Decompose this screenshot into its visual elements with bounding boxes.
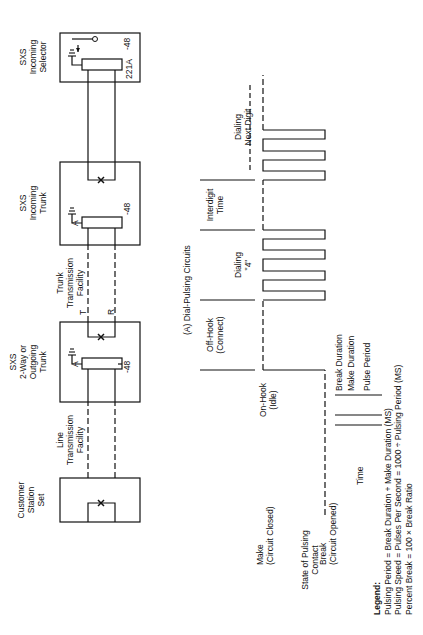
make-duration-label: Make Duration [346, 336, 356, 391]
tip-label: T [78, 310, 88, 315]
relay-a-two-way [82, 358, 122, 369]
pulse-period-label: Pulse Period [362, 343, 372, 391]
label-line: Trunk [38, 332, 48, 392]
pulse-train-next [263, 130, 325, 180]
label-line: Outgoing [28, 332, 38, 392]
label-line: Facility [75, 253, 85, 313]
label-line: Off-Hook [205, 307, 215, 363]
relay-a-incoming [82, 217, 122, 228]
relay-a-incoming-label: A [70, 220, 80, 226]
figure-caption: (A) Dial-Pulsing Circuits [182, 245, 192, 335]
two-way-trunk-label: SXS 2-Way or Outgoing Trunk [8, 332, 48, 392]
on-hook-label: On-Hook (Idle) [258, 375, 278, 425]
label-line: Dialing [233, 97, 243, 157]
state-axis-title: State of Pulsing Contact [300, 525, 320, 595]
label-line: Dialing [233, 240, 243, 290]
label-line: Incoming [28, 27, 38, 87]
label-line: Time [215, 180, 225, 230]
diagram-stage: Customer Station Set SXS 2-Way or Outgoi… [0, 0, 423, 635]
label-line: Line [55, 410, 65, 470]
customer-station-label: Customer Station Set [16, 470, 46, 530]
pulse-train-4 [263, 230, 325, 300]
label-line: Set [36, 470, 46, 530]
legend-line: Pulsing Speed = Pulses Per Second = 1000… [393, 365, 404, 615]
voltage-two-way: -48 [122, 361, 132, 373]
voltage-incoming: -48 [122, 203, 132, 215]
label-line: Next Digit [243, 97, 253, 157]
label-line: State of Pulsing [300, 525, 310, 595]
label-line: Transmission [65, 253, 75, 313]
label-line: Station [26, 470, 36, 530]
ring-label: R [106, 309, 116, 315]
label-line: Make [255, 506, 265, 565]
relay-221a [82, 59, 122, 70]
label-line: (Circuit Closed) [265, 506, 275, 565]
customer-station-box [60, 478, 140, 522]
legend: Legend: Pulsing Period = Break Duration … [372, 365, 414, 615]
label-line: (Circuit Opened) [328, 503, 338, 565]
relay-a-label: A [70, 361, 80, 367]
label-line: Incoming [28, 173, 38, 233]
voltage-selector: -48 [122, 38, 132, 50]
relay-221a-label: 221A [124, 59, 134, 79]
label-line: 2-Way or [18, 332, 28, 392]
make-label: Make (Circuit Closed) [255, 506, 275, 565]
incoming-trunk-label: SXS Incoming Trunk [18, 173, 48, 233]
label-line: On-Hook [258, 375, 268, 425]
label-line: Trunk [38, 173, 48, 233]
break-label: Break (Circuit Opened) [318, 503, 338, 565]
label-line: "4" [243, 240, 253, 290]
time-label: Time [355, 466, 365, 485]
line-facility-label: Line Transmission Facility [55, 410, 85, 470]
label-line: Selector [38, 27, 48, 87]
break-duration-label: Break Duration [334, 334, 344, 391]
legend-line: Pulsing Period = Break Duration + Make D… [383, 365, 394, 615]
label-line: SXS [18, 27, 28, 87]
interdigit-label: Interdigit Time [205, 180, 225, 230]
trunk-facility-label: Trunk Transmission Facility [55, 253, 85, 313]
label-line: SXS [8, 332, 18, 392]
label-line: Transmission [65, 410, 75, 470]
label-line: SXS [18, 173, 28, 233]
off-hook-label: Off-Hook (Connect) [205, 307, 225, 363]
dialing-next-label: Dialing Next Digit [233, 97, 253, 157]
label-line: (Connect) [215, 307, 225, 363]
label-line: Interdigit [205, 180, 215, 230]
legend-line: Percent Break = 100 × Break Ratio [404, 365, 415, 615]
selector-label: SXS Incoming Selector [18, 27, 48, 87]
customer-loop [88, 503, 115, 522]
label-line: Trunk [55, 253, 65, 313]
selector-loop [88, 82, 115, 180]
label-line: Facility [75, 410, 85, 470]
label-line: Customer [16, 470, 26, 530]
label-line: (Idle) [268, 375, 278, 425]
dialing-4-label: Dialing "4" [233, 240, 253, 290]
label-line: Contact [310, 525, 320, 595]
legend-title: Legend: [372, 582, 382, 615]
